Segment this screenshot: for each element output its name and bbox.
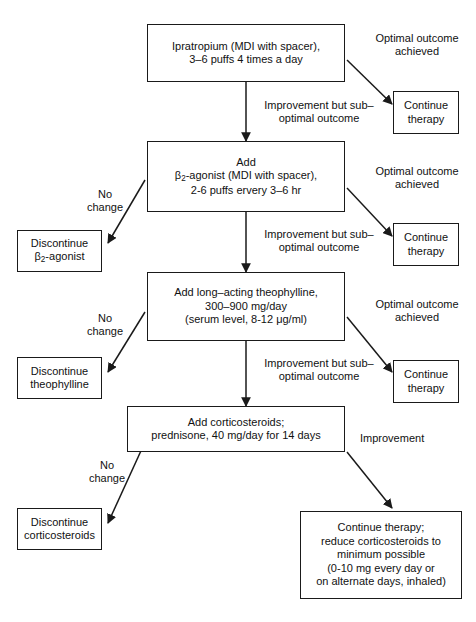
node-discontinue-corticosteroids[interactable]: Discontinue corticosteroids bbox=[17, 508, 102, 550]
edge-label-no-change-3: No change bbox=[80, 459, 134, 485]
edge-label-improvement: Improvement bbox=[360, 432, 470, 445]
edge-label-optimal-outcome-3: Optimal outcome achieved bbox=[358, 298, 476, 324]
edge-label-suboptimal-3: Improvement but sub– optimal outcome bbox=[252, 357, 386, 383]
node-step1-ipratropium[interactable]: Ipratropium (MDI with spacer), 3–6 puffs… bbox=[147, 24, 345, 82]
node-step2-line3: 2-6 puffs ervery 3–6 hr bbox=[191, 184, 301, 197]
node-step3-theophylline[interactable]: Add long–acting theophylline, 300–900 mg… bbox=[147, 272, 345, 341]
connector-step1-to-continue1 bbox=[347, 60, 392, 104]
connector-step4-to-final bbox=[347, 452, 392, 508]
edge-label-optimal-outcome-2: Optimal outcome achieved bbox=[358, 165, 476, 191]
node-step2-beta2-agonist[interactable]: Add β2-agonist (MDI with spacer), 2-6 pu… bbox=[147, 141, 345, 212]
node-step2-line2: β2-agonist (MDI with spacer), bbox=[175, 169, 317, 184]
node-continue-therapy-2[interactable]: Continue therapy bbox=[393, 223, 459, 266]
edge-label-no-change-1: No change bbox=[78, 188, 132, 214]
edge-label-suboptimal-1: Improvement but sub– optimal outcome bbox=[252, 99, 386, 125]
node-discontinue-beta2-agonist[interactable]: Discontinue β2-agonist bbox=[17, 230, 102, 272]
node-step4-corticosteroids[interactable]: Add corticosteroids; prednisone, 40 mg/d… bbox=[127, 406, 345, 452]
discontinue1-line2: β2-agonist bbox=[35, 250, 85, 265]
node-final-continue-reduce[interactable]: Continue therapy; reduce corticosteroids… bbox=[300, 511, 462, 599]
discontinue1-line1: Discontinue bbox=[31, 237, 88, 250]
node-continue-therapy-3[interactable]: Continue therapy bbox=[393, 360, 459, 403]
edge-label-no-change-2: No change bbox=[78, 312, 132, 338]
edge-label-optimal-outcome-1: Optimal outcome achieved bbox=[358, 32, 476, 58]
node-discontinue-theophylline[interactable]: Discontinue theophylline bbox=[17, 357, 102, 399]
flowchart-page: Ipratropium (MDI with spacer), 3–6 puffs… bbox=[0, 0, 476, 622]
edge-label-suboptimal-2: Improvement but sub– optimal outcome bbox=[252, 228, 386, 254]
node-step2-line1: Add bbox=[236, 156, 256, 169]
node-continue-therapy-1[interactable]: Continue therapy bbox=[393, 91, 459, 134]
